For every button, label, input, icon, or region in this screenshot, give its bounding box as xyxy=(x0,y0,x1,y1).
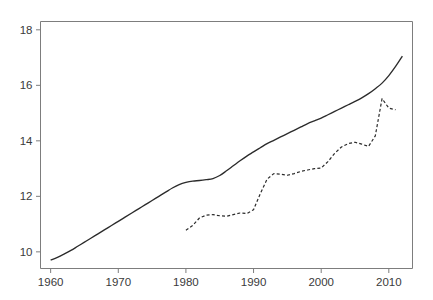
chart-figure: 1012141618 196019701980199020002010 xyxy=(0,0,433,300)
x-tick-label: 1990 xyxy=(241,276,267,288)
x-tick-label: 2000 xyxy=(308,276,334,288)
x-tick-label: 1980 xyxy=(173,276,199,288)
x-tick-label: 2010 xyxy=(376,276,402,288)
line-chart: 1012141618 196019701980199020002010 xyxy=(0,0,433,300)
x-tick-label: 1960 xyxy=(38,276,64,288)
y-tick-label: 12 xyxy=(20,190,33,202)
y-tick-label: 14 xyxy=(20,135,33,147)
y-tick-label: 18 xyxy=(20,24,33,36)
x-tick-label: 1970 xyxy=(105,276,131,288)
y-tick-label: 10 xyxy=(20,246,33,258)
chart-background xyxy=(0,0,433,300)
y-tick-label: 16 xyxy=(20,79,33,91)
